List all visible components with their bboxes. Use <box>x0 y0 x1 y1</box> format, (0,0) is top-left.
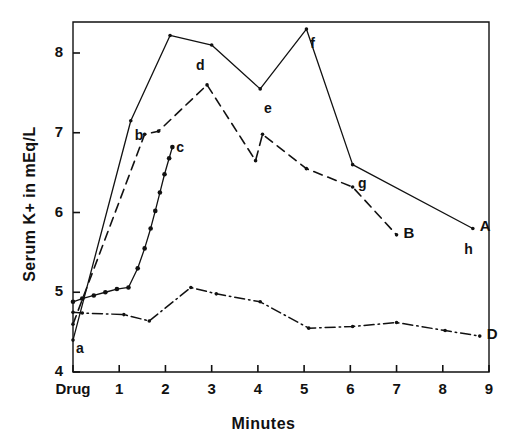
x-axis-tick-label: 7 <box>377 380 417 397</box>
data-point-marker <box>443 329 447 333</box>
data-point-marker <box>351 325 355 329</box>
data-point-marker <box>103 290 108 295</box>
data-point-marker <box>214 292 218 296</box>
series-end-label-D: D <box>487 325 498 342</box>
point-annotation-d: d <box>196 57 205 73</box>
x-axis-tick-label: 8 <box>423 380 463 397</box>
plot-frame <box>73 22 489 372</box>
chart-axes <box>73 22 489 372</box>
data-point-marker <box>471 227 475 231</box>
point-annotation-c: c <box>176 139 184 155</box>
series-line-D <box>73 287 480 336</box>
data-point-marker <box>261 133 265 137</box>
point-annotation-b: b <box>135 127 144 143</box>
data-point-marker <box>92 293 97 298</box>
point-annotation-a: a <box>76 340 84 356</box>
data-point-marker <box>395 321 399 325</box>
y-axis-tick-label: 8 <box>37 43 63 60</box>
data-point-marker <box>258 300 262 304</box>
data-point-marker <box>153 209 158 214</box>
data-point-marker <box>170 145 175 150</box>
x-axis-tick-label: 9 <box>469 380 509 397</box>
data-point-marker <box>168 34 172 38</box>
data-point-marker <box>135 266 140 271</box>
point-annotation-g: g <box>358 175 367 191</box>
series-line-A <box>73 29 473 340</box>
figure-container: Serum K+ in mEq/L Minutes 45678 Drug1234… <box>0 0 527 448</box>
chart-series <box>71 27 482 342</box>
x-axis-tick-label: 5 <box>284 380 324 397</box>
x-axis-tick-label: 4 <box>238 380 278 397</box>
data-point-marker <box>157 129 161 133</box>
series-line-C <box>73 147 172 302</box>
point-annotation-h: h <box>464 241 473 257</box>
series-end-label-A: A <box>480 217 491 234</box>
data-point-marker <box>147 319 151 323</box>
x-axis-tick-label: 2 <box>145 380 185 397</box>
data-point-marker <box>80 311 84 315</box>
data-point-marker <box>307 326 311 330</box>
data-point-marker <box>115 287 120 292</box>
data-point-marker <box>351 163 355 167</box>
data-point-marker <box>305 167 309 171</box>
data-point-marker <box>189 286 193 290</box>
y-axis-tick-label: 4 <box>37 362 63 379</box>
data-point-marker <box>126 285 131 290</box>
data-point-marker <box>142 246 147 251</box>
data-point-marker <box>122 313 126 317</box>
data-point-marker <box>71 300 76 305</box>
data-point-marker <box>478 334 482 338</box>
point-annotation-f: f <box>310 35 315 51</box>
y-axis-tick-label: 5 <box>37 282 63 299</box>
x-axis-tick-label: 1 <box>99 380 139 397</box>
data-point-marker <box>210 43 214 47</box>
y-axis-tick-label: 7 <box>37 123 63 140</box>
data-point-marker <box>143 133 147 137</box>
data-point-marker <box>254 159 258 163</box>
point-annotation-e: e <box>264 100 272 116</box>
series-end-label-B: B <box>404 224 415 241</box>
data-point-marker <box>305 27 309 31</box>
data-point-marker <box>148 226 153 231</box>
data-point-marker <box>351 185 355 189</box>
data-point-marker <box>129 119 133 123</box>
data-point-marker <box>80 296 85 301</box>
x-axis-title: Minutes <box>0 415 527 433</box>
data-point-marker <box>71 322 75 326</box>
data-point-marker <box>162 172 167 177</box>
data-point-marker <box>167 156 172 161</box>
data-point-marker <box>205 83 209 87</box>
data-point-marker <box>258 87 262 91</box>
data-point-marker <box>71 310 75 314</box>
data-point-marker <box>395 233 399 237</box>
data-point-marker <box>71 338 75 342</box>
x-axis-tick-label: 3 <box>192 380 232 397</box>
data-point-marker <box>158 190 163 195</box>
x-axis-tick-label: 6 <box>330 380 370 397</box>
y-axis-tick-label: 6 <box>37 203 63 220</box>
x-axis-tick-label: Drug <box>45 380 101 397</box>
